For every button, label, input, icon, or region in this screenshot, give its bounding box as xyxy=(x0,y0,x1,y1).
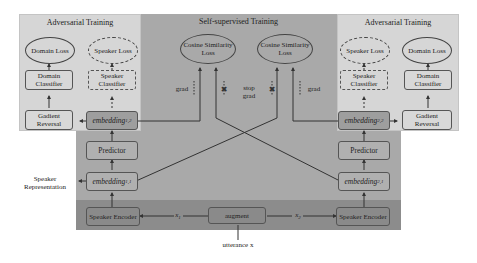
x2-label: x2 xyxy=(292,211,304,222)
x1-label: x1 xyxy=(172,211,184,222)
left-predictor: Predictor xyxy=(86,141,138,160)
left-embedding-1-2-sub: 1,2 xyxy=(125,117,131,125)
right-embedding-2-2: embedding2,2 xyxy=(338,111,390,130)
left-speaker-loss: Speaker Loss xyxy=(88,37,138,64)
cosine-similarity-loss-right: Cosine Similarity Loss xyxy=(257,34,313,64)
left-embedding-1-1-sub: 1,1 xyxy=(125,178,131,186)
right-predictor: Predictor xyxy=(338,141,390,160)
left-embedding-1-2: embedding1,2 xyxy=(86,111,138,130)
grad-label-right: grad xyxy=(304,85,324,93)
right-speaker-loss: Speaker Loss xyxy=(340,37,390,64)
stop-grad-mark-left: ✖ xyxy=(221,85,228,94)
left-speaker-classifier: Speaker Classifier xyxy=(88,70,136,90)
right-speaker-encoder: Speaker Encoder xyxy=(336,207,390,226)
left-embedding-1-1-base: embedding xyxy=(92,178,125,186)
right-embedding-2-2-sub: 2,2 xyxy=(377,117,383,125)
x2-sub: 2 xyxy=(298,215,301,220)
left-domain-classifier: Domain Classifier xyxy=(25,70,73,90)
grad-label-left: grad xyxy=(172,85,192,93)
left-embedding-1-2-base: embedding xyxy=(92,117,125,125)
right-domain-classifier: Domain Classifier xyxy=(404,70,452,90)
left-embedding-1-1: embedding1,1 xyxy=(86,172,138,191)
left-domain-loss: Domain Loss xyxy=(25,37,75,64)
right-embedding-2-1-sub: 2,1 xyxy=(377,178,383,186)
right-embedding-2-1-base: embedding xyxy=(344,178,377,186)
utterance-label: utterance x xyxy=(208,241,268,249)
speaker-representation-label: Speaker Representation xyxy=(16,175,74,191)
left-gradient-reversal: Gadient Reversal xyxy=(25,110,73,130)
right-embedding-2-2-base: embedding xyxy=(344,117,377,125)
right-embedding-2-1: embedding2,1 xyxy=(338,172,390,191)
x1-sub: 1 xyxy=(178,215,181,220)
stop-grad-label: stop grad xyxy=(238,84,260,100)
right-gradient-reversal: Gadient Reversal xyxy=(402,110,452,130)
right-speaker-classifier: Speaker Classifier xyxy=(340,70,388,90)
augment-box: augment xyxy=(208,207,266,224)
stop-grad-mark-right: ✖ xyxy=(269,85,276,94)
left-speaker-encoder: Speaker Encoder xyxy=(86,207,140,226)
cosine-similarity-loss-left: Cosine Similarity Loss xyxy=(180,34,236,64)
right-domain-loss: Domain Loss xyxy=(402,37,452,64)
